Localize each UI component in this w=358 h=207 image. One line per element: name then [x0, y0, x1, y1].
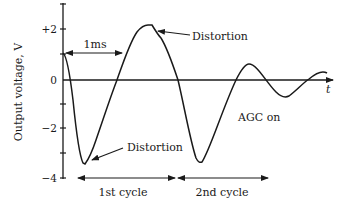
agc-on-label: AGC on: [237, 111, 280, 124]
y-tick-label-p2: +2: [42, 23, 57, 35]
one-ms-label: 1ms: [83, 38, 106, 51]
cycle2-label: 2nd cycle: [195, 186, 248, 199]
distortion-bottom-label: Distortion: [127, 141, 183, 154]
x-axis-label: t: [326, 83, 331, 96]
distortion-bottom-arrow: [92, 148, 123, 160]
y-tick-label-m2: −2: [42, 122, 57, 134]
y-axis-label: Output voltage, V: [12, 42, 25, 141]
waveform-chart: +2 0 −2 −4 Output voltage, V t 1ms Disto…: [0, 0, 358, 207]
y-tick-label-0: 0: [50, 74, 57, 86]
y-tick-label-m4: −4: [42, 172, 58, 184]
distortion-top-arrow: [158, 31, 190, 35]
distortion-top-label: Distortion: [192, 30, 248, 43]
cycle1-label: 1st cycle: [98, 186, 147, 199]
